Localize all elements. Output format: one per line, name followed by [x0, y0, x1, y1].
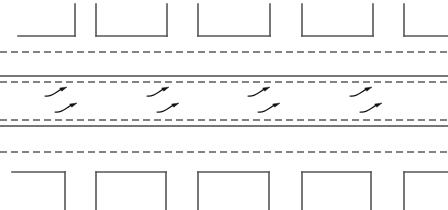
block-s2	[96, 172, 166, 210]
diagram-canvas	[0, 0, 448, 210]
arrow-down-2-tail	[157, 105, 175, 113]
block-n2	[96, 4, 167, 36]
arrow-down-1-tail	[55, 105, 73, 113]
arrow-down-3	[258, 103, 280, 112]
south-city-blocks-group	[12, 172, 448, 210]
arrow-down-2-head	[172, 103, 179, 107]
lane-direction-arrows-group	[45, 87, 382, 112]
block-s3	[198, 172, 269, 210]
arrow-up-2-head	[162, 87, 169, 91]
arrow-up-4-head	[365, 87, 372, 91]
arrow-down-4-head	[375, 103, 382, 107]
arrow-down-2	[157, 103, 179, 112]
arrow-down-1	[55, 103, 77, 112]
block-n1	[18, 4, 75, 36]
arrow-up-3	[248, 87, 270, 96]
arrow-down-4-tail	[360, 105, 378, 113]
arrow-up-4-tail	[350, 89, 368, 97]
block-n3	[198, 4, 270, 36]
north-city-blocks-group	[18, 4, 448, 36]
arrow-down-1-head	[70, 103, 77, 107]
arrow-up-1	[45, 87, 67, 96]
arrow-up-2-tail	[147, 89, 165, 97]
block-s5	[404, 172, 448, 210]
arrow-up-1-head	[60, 87, 67, 91]
arrow-down-4	[360, 103, 382, 112]
block-n4	[302, 4, 373, 36]
arrow-up-3-tail	[248, 89, 266, 97]
block-n5	[404, 4, 448, 36]
block-s4	[302, 172, 371, 210]
arrow-up-3-head	[263, 87, 270, 91]
block-s1	[12, 172, 65, 210]
arrow-up-2	[147, 87, 169, 96]
arrow-down-3-tail	[258, 105, 276, 113]
arrow-up-1-tail	[45, 89, 63, 97]
arrow-down-3-head	[273, 103, 280, 107]
arrow-up-4	[350, 87, 372, 96]
roadway-lane-lines-group	[0, 52, 448, 152]
street-network-diagram	[0, 0, 448, 210]
